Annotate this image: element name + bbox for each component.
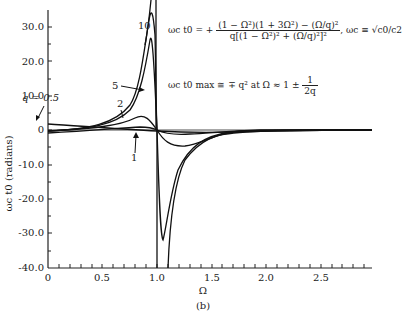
max-equation-denominator: 2q xyxy=(302,86,318,96)
y-tick-label: -20.0 xyxy=(18,193,44,204)
curve-q-10-lower-right xyxy=(168,130,372,268)
max-equation-fraction: 1 2q xyxy=(302,75,318,96)
max-equation-lhs: ωc t0 max ≅ ∓ q² at Ω ≈ 1 ± xyxy=(168,80,299,90)
equation-lhs: ωc t0 = + xyxy=(168,25,213,35)
label-q-0.5: q = 0.5 xyxy=(22,92,59,103)
x-tick-label: 1.0 xyxy=(149,272,165,283)
y-tick-label: 20.0 xyxy=(22,56,44,67)
arrow-head-icon xyxy=(133,132,139,138)
equation-denominator: q[(1 − Ω²)² + (Ω/q)²]² xyxy=(216,31,340,41)
x-tick-label: 2.5 xyxy=(313,272,329,283)
curve-q-2 xyxy=(48,116,372,146)
equation-suffix: , ωc ≡ √c0/c2 xyxy=(340,25,402,35)
equation-numerator: (1 − Ω²)(1 + 3Ω²) − (Ω/q)² xyxy=(216,20,340,31)
y-tick-label: -30.0 xyxy=(18,227,44,238)
y-tick-label: -10.0 xyxy=(18,159,44,170)
x-tick-label: 2.0 xyxy=(258,272,274,283)
x-tick-label: 0.5 xyxy=(94,272,110,283)
y-tick-label: -40.0 xyxy=(18,262,44,273)
x-tick-label: 1.5 xyxy=(204,272,220,283)
y-tick-label: 0 xyxy=(38,124,44,135)
panel-label: (b) xyxy=(196,300,210,311)
y-tick-label: 30.0 xyxy=(22,21,44,32)
label-q-2: 2 xyxy=(117,98,123,109)
label-q-5: 5 xyxy=(112,80,118,91)
arrow-q-0.5 xyxy=(38,106,44,118)
max-equation: ωc t0 max ≅ ∓ q² at Ω ≈ 1 ± 1 2q xyxy=(168,75,318,96)
equation-fraction: (1 − Ω²)(1 + 3Ω²) − (Ω/q)² q[(1 − Ω²)² +… xyxy=(216,20,340,41)
label-q-10: 10 xyxy=(138,20,151,31)
x-axis-label: Ω xyxy=(199,285,207,296)
x-tick-label: 0 xyxy=(45,272,51,283)
max-equation-numerator: 1 xyxy=(302,75,318,86)
chart-canvas: 30.0 20.0 10.0 0 -10.0 -20.0 -30.0 -40.0… xyxy=(0,0,405,312)
label-q-1: 1 xyxy=(131,152,137,163)
y-axis-label: ωc t0 (radians) xyxy=(3,135,14,211)
arrow-head-icon xyxy=(139,87,145,92)
main-equation: ωc t0 = + (1 − Ω²)(1 + 3Ω²) − (Ω/q)² q[(… xyxy=(168,20,402,41)
